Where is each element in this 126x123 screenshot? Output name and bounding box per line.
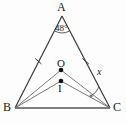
angle-label-x: x	[97, 67, 101, 77]
vertex-label-A: A	[57, 1, 66, 13]
point-label-I: I	[58, 83, 62, 94]
angle-label-apex: 48°	[55, 24, 68, 33]
point-label-O: O	[57, 58, 65, 69]
segment-BO	[15, 70, 61, 108]
vertex-label-B: B	[3, 101, 11, 113]
segment-OC	[61, 70, 110, 108]
vertex-dot-C-arc	[89, 94, 92, 97]
vertex-label-C: C	[113, 101, 121, 113]
tick-mark-AC	[83, 59, 89, 65]
geometry-figure: A B C O I 48° x	[0, 0, 126, 123]
